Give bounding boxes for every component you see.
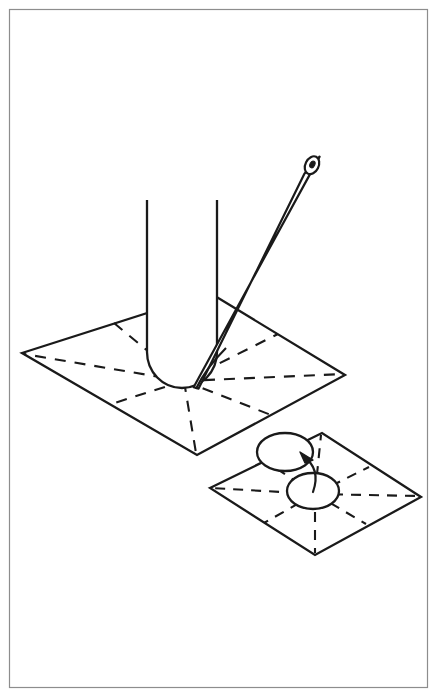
technical-illustration: Isometric line drawing of a cylindrical …: [0, 0, 444, 698]
punch-cylinder-group: [147, 200, 217, 388]
punch-cylinder-body: [147, 200, 217, 388]
figure-canvas: Isometric line drawing of a cylindrical …: [0, 0, 444, 698]
displaced-slug-ellipse: [257, 433, 313, 471]
